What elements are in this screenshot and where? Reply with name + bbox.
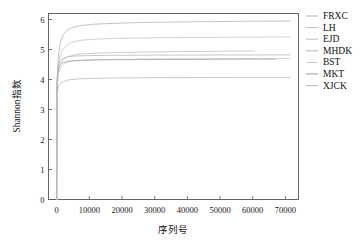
curve-xjck <box>57 77 291 199</box>
x-tick-label: 70000 <box>275 205 296 215</box>
y-tick-label: 3 <box>40 105 44 115</box>
y-tick-label: 2 <box>40 135 44 145</box>
curve-lh <box>57 37 291 200</box>
legend-label-xjck: XJCK <box>323 81 347 91</box>
chart-figure: 0123456 01000020000300004000050000600007… <box>0 0 362 245</box>
plot-frame <box>49 14 299 200</box>
legend: FRXCLHEJDMHDKBSTMKTXJCK <box>306 11 352 91</box>
x-tick-label: 0 <box>55 205 59 215</box>
legend-label-bst: BST <box>323 57 341 67</box>
y-tick-label: 1 <box>40 165 44 175</box>
shannon-rarefaction-chart: 0123456 01000020000300004000050000600007… <box>0 0 362 245</box>
y-tick-label: 5 <box>40 45 44 55</box>
legend-label-mhdk: MHDK <box>323 46 352 56</box>
curve-bst <box>57 59 291 200</box>
x-tick-label: 30000 <box>144 205 165 215</box>
x-axis-ticks: 010000200003000040000500006000070000 <box>55 196 297 215</box>
curve-mkt <box>57 59 276 199</box>
x-tick-label: 50000 <box>209 205 230 215</box>
y-tick-label: 6 <box>40 15 44 25</box>
y-axis-title: Shannon指数 <box>11 79 22 132</box>
legend-label-mkt: MKT <box>323 69 344 79</box>
y-axis-ticks: 0123456 <box>40 15 52 205</box>
legend-label-frxc: FRXC <box>323 11 348 21</box>
x-tick-label: 60000 <box>242 205 263 215</box>
x-tick-label: 20000 <box>111 205 132 215</box>
y-tick-label: 0 <box>40 195 44 205</box>
curve-mhdk <box>57 55 291 200</box>
y-tick-label: 4 <box>40 75 45 85</box>
x-tick-label: 10000 <box>79 205 100 215</box>
curve-ejd <box>57 51 255 200</box>
legend-label-lh: LH <box>323 23 336 33</box>
x-tick-label: 40000 <box>177 205 198 215</box>
x-axis-title: 序列号 <box>158 224 188 235</box>
curve-frxc <box>57 21 291 200</box>
legend-label-ejd: EJD <box>323 34 340 44</box>
data-curves <box>57 21 291 200</box>
